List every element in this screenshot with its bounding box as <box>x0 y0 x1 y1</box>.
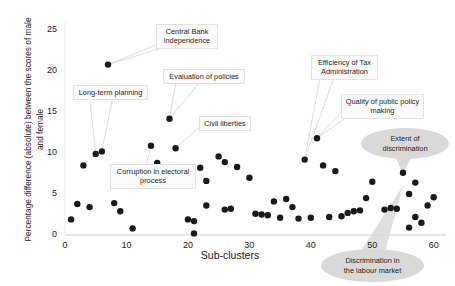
annotation-evaluation-of-policies: Evaluation of policies <box>163 69 245 84</box>
data-point <box>191 230 197 236</box>
data-point <box>271 198 277 204</box>
data-point <box>86 204 92 210</box>
data-point <box>412 214 418 220</box>
data-point <box>228 206 234 212</box>
data-point <box>283 196 289 202</box>
data-point <box>332 168 338 174</box>
y-tick-label: 20 <box>35 65 57 75</box>
data-point <box>289 204 295 210</box>
data-point <box>314 135 320 141</box>
data-point <box>394 206 400 212</box>
scatter-chart-figure: Percentage difference (absolute) between… <box>0 0 455 286</box>
data-point <box>185 216 191 222</box>
data-point <box>406 191 412 197</box>
data-point <box>111 200 117 206</box>
data-point <box>172 145 178 151</box>
data-point <box>388 205 394 211</box>
data-point <box>222 206 228 212</box>
y-tick-label: 15 <box>35 106 57 116</box>
y-axis-label: Percentage difference (absolute) between… <box>23 10 46 250</box>
data-point <box>369 179 375 185</box>
data-point <box>80 162 86 168</box>
annotation-discrimination-in-the-labour-market: Discrimination in the labour market <box>321 249 424 282</box>
annotation-central-bank-independence: Central Bank independence <box>156 24 218 49</box>
data-point <box>418 220 424 226</box>
annotation-long-term-planning: Long-term planning <box>73 85 148 100</box>
data-point <box>431 194 437 200</box>
x-tick-label: 40 <box>298 240 324 250</box>
annotation-civil-liberties: Civil liberties <box>199 116 251 131</box>
data-point <box>203 202 209 208</box>
data-point <box>345 210 351 216</box>
annotation-corruption-in-electoral-process: Corruption in electoral process <box>110 164 196 189</box>
data-point <box>381 206 387 212</box>
data-point <box>74 201 80 207</box>
x-tick-label: 0 <box>52 240 78 250</box>
x-axis-label: Sub-clusters <box>155 249 305 261</box>
data-point <box>277 215 283 221</box>
y-tick-label: 10 <box>35 147 57 157</box>
data-point <box>424 202 430 208</box>
data-point <box>117 208 123 214</box>
data-point <box>326 214 332 220</box>
data-point <box>338 213 344 219</box>
x-tick-label: 60 <box>421 240 447 250</box>
x-tick-label: 30 <box>236 240 262 250</box>
data-point <box>246 175 252 181</box>
data-point <box>93 151 99 157</box>
data-point <box>363 195 369 201</box>
data-point <box>351 208 357 214</box>
data-point <box>308 215 314 221</box>
data-point <box>302 156 308 162</box>
data-point <box>412 179 418 185</box>
data-point <box>222 159 228 165</box>
data-point <box>148 143 154 149</box>
data-point <box>68 216 74 222</box>
data-point <box>400 170 406 176</box>
data-point <box>357 207 363 213</box>
data-point <box>406 224 412 230</box>
data-point <box>203 178 209 184</box>
data-point <box>197 165 203 171</box>
annotation-efficiency-of-tax-administration: Efficiency of Tax Administration <box>311 55 378 80</box>
x-tick-label: 20 <box>175 240 201 250</box>
y-tick-label: 0 <box>35 229 57 239</box>
data-point <box>129 225 135 231</box>
data-point <box>258 211 264 217</box>
annotation-extent-of-discrimination: Extent of discrimination <box>361 128 449 159</box>
data-point <box>166 116 172 122</box>
data-point <box>215 153 221 159</box>
data-point <box>191 218 197 224</box>
annotation-quality-of-public-policy-making: Quality of public policy making <box>341 94 424 119</box>
data-point <box>105 61 111 67</box>
data-point <box>320 162 326 168</box>
y-tick-label: 5 <box>35 188 57 198</box>
x-tick-label: 10 <box>113 240 139 250</box>
data-point <box>234 164 240 170</box>
data-point <box>99 148 105 154</box>
y-tick-label: 25 <box>35 24 57 34</box>
data-point <box>252 211 258 217</box>
data-point <box>295 215 301 221</box>
data-point <box>265 212 271 218</box>
